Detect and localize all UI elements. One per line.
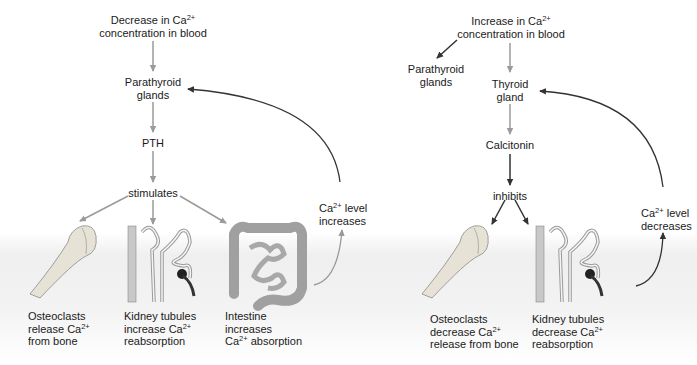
- kidney-illustration-left: [128, 226, 194, 302]
- text: glands: [420, 76, 452, 88]
- text: decrease Ca: [532, 326, 594, 338]
- text: reabsorption: [532, 338, 593, 350]
- text: Kidney tubules: [124, 310, 196, 322]
- feedback-arrow-rise: [314, 230, 342, 285]
- text: glands: [137, 89, 169, 101]
- superscript: 2+: [187, 13, 196, 22]
- superscript: 2+: [594, 325, 603, 334]
- arrow-inhibits-to-kidney: [515, 200, 528, 224]
- kidney-illustration-right: [536, 226, 602, 302]
- text: concentration in blood: [99, 27, 207, 39]
- text: Thyroid: [492, 78, 529, 90]
- superscript: 2+: [81, 322, 90, 331]
- kidney-effect-label-right: Kidney tubules decrease Ca2+ reabsorptio…: [532, 313, 604, 351]
- feedback-arrow-rise-right: [636, 233, 663, 286]
- text: decreases: [641, 220, 692, 232]
- text: release Ca: [28, 323, 81, 335]
- feedback-arrow-top: [188, 89, 340, 182]
- flow-arrows: [0, 0, 697, 365]
- text: increases: [319, 215, 366, 227]
- text: Ca: [319, 202, 333, 214]
- intestine-illustration: [234, 227, 302, 306]
- stimulates-label: stimulates: [128, 187, 178, 200]
- right-trigger-label: Increase in Ca2+ concentration in blood: [457, 15, 565, 40]
- superscript: 2+: [542, 14, 551, 23]
- left-trigger-label: Decrease in Ca2+ concentration in blood: [99, 14, 207, 39]
- superscript: 2+: [492, 325, 501, 334]
- text: Osteoclasts: [28, 310, 85, 322]
- bone-illustration-right: [422, 226, 488, 298]
- text: Increase in Ca: [471, 15, 542, 27]
- kidney-effect-label: Kidney tubules increase Ca2+ reabsorptio…: [124, 310, 196, 348]
- superscript: 2+: [183, 322, 192, 331]
- bone-effect-label-right: Osteoclasts decrease Ca2+ release from b…: [430, 313, 519, 351]
- arrow-stimulates-to-intestine: [180, 196, 226, 223]
- bone-effect-label: Osteoclasts release Ca2+ from bone: [28, 310, 90, 348]
- text: Intestine: [225, 310, 267, 322]
- text: gland: [497, 91, 524, 103]
- text: Ca: [225, 335, 239, 347]
- pth-label: PTH: [142, 137, 164, 150]
- text: increase Ca: [124, 323, 183, 335]
- text: absorption: [248, 335, 302, 347]
- calcitonin-label: Calcitonin: [486, 139, 534, 152]
- feedback-arrow-top-right: [540, 91, 663, 187]
- superscript: 2+: [239, 334, 248, 343]
- text: concentration in blood: [457, 28, 565, 40]
- text: from bone: [28, 335, 78, 347]
- text: Kidney tubules: [532, 313, 604, 325]
- arrow-trigger-to-side-parathyroid: [437, 40, 457, 58]
- text: level: [342, 202, 368, 214]
- text: increases: [225, 323, 272, 335]
- side-parathyroid-label: Parathyroid glands: [408, 63, 464, 88]
- bone-illustration-left: [30, 226, 96, 298]
- text: Parathyroid: [408, 63, 464, 75]
- text: release from bone: [430, 338, 519, 350]
- right-feedback-label: Ca2+ level decreases: [641, 207, 692, 232]
- arrow-inhibits-to-bone: [492, 200, 505, 224]
- superscript: 2+: [655, 206, 664, 215]
- text: Decrease in Ca: [111, 14, 187, 26]
- text: Osteoclasts: [430, 313, 487, 325]
- text: decrease Ca: [430, 326, 492, 338]
- parathyroid-label: Parathyroid glands: [125, 76, 181, 101]
- text: Parathyroid: [125, 76, 181, 88]
- thyroid-label: Thyroid gland: [492, 78, 529, 103]
- intestine-effect-label: Intestine increases Ca2+ absorption: [225, 310, 302, 348]
- arrow-stimulates-to-bone: [80, 196, 128, 221]
- superscript: 2+: [333, 201, 342, 210]
- text: level: [664, 207, 690, 219]
- text: Ca: [641, 207, 655, 219]
- inhibits-label: inhibits: [493, 190, 527, 203]
- text: reabsorption: [124, 335, 185, 347]
- left-feedback-label: Ca2+ level increases: [319, 202, 367, 227]
